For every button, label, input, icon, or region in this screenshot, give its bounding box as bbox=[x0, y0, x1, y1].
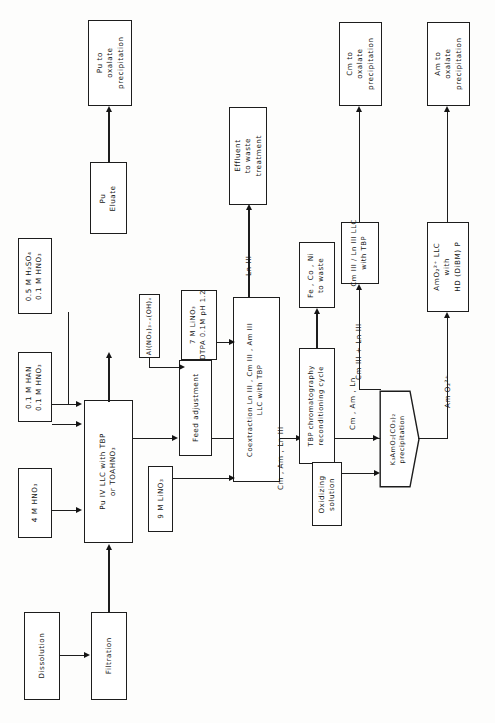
node-tbp-chromatography: TBP chromatography reconditioning cycle bbox=[299, 348, 335, 464]
arrowhead-pullc-feedadjust bbox=[172, 435, 178, 441]
node-coextraction: Coextraction Ln III , Cm III , Am III LL… bbox=[233, 297, 280, 482]
node-feed-adjustment-label: Feed adjustment bbox=[191, 374, 200, 443]
edge-oxidizing-k3amo2 bbox=[342, 473, 374, 474]
arrowhead-dissolution-filtration bbox=[84, 652, 90, 658]
node-fe-co-ni-waste-label: Fe , Co , Ni to waste bbox=[307, 252, 328, 297]
node-linO3-9m: 9 M LiNO₃ bbox=[148, 466, 173, 532]
node-dissolution: Dissolution bbox=[24, 612, 60, 700]
node-am-oxalate-label: Am to oxalate precipitation bbox=[433, 38, 464, 90]
arrowhead-ambranch-amo2llc bbox=[444, 312, 450, 318]
node-han-label: 0.1 M HAN 0.1 M HNO₃ bbox=[25, 363, 46, 410]
node-filtration-label: Filtration bbox=[104, 637, 113, 674]
node-linO3-9m-label: 9 M LiNO₃ bbox=[156, 479, 165, 519]
edge-coextraction-effluent bbox=[248, 210, 249, 298]
flowchart-canvas: Dissolution Filtration Pu IV LLC with TB… bbox=[0, 0, 495, 723]
node-fe-co-ni-waste: Fe , Co , Ni to waste bbox=[299, 242, 335, 308]
edge-amo2llc-amoxalate bbox=[447, 112, 448, 222]
node-linO3-7m-label: 7 M LiNO₃ DTPA 0.1M pH 1.2 bbox=[189, 290, 209, 360]
node-hno3-feed: 4 M HNO₃ bbox=[18, 468, 52, 538]
edge-linO3-9m-coextraction bbox=[173, 478, 229, 479]
edge-filtration-pullc bbox=[108, 550, 109, 612]
stream-label-cm-plus-ln: Cm III + Ln III bbox=[354, 323, 363, 380]
node-k3amo2-precipitation-label: K₃AmO₂(CO₃)₂ precipitation bbox=[388, 413, 407, 465]
arrowhead-cmlnllc-cmoxalate bbox=[356, 106, 362, 112]
stream-label-ln-iii: Ln III bbox=[244, 255, 253, 276]
node-al-nitrate: Al(NO₃)₃₋ₓ(OH)ₓ bbox=[139, 294, 160, 358]
arrowhead-han-pullc bbox=[76, 421, 82, 427]
node-tbp-chromatography-label: TBP chromatography reconditioning cycle bbox=[307, 365, 327, 446]
arrowhead-linO3-7m-coextraction bbox=[229, 339, 235, 345]
arrowhead-pullc-eluate bbox=[106, 352, 112, 358]
node-han: 0.1 M HAN 0.1 M HNO₃ bbox=[18, 352, 52, 422]
node-pu-oxalate-label: Pu to oxalate precipitation bbox=[94, 37, 125, 89]
edge-han-pullc bbox=[52, 424, 76, 425]
node-cm-ln-llc-label: Cm III / Ln III LLC with TBP bbox=[350, 219, 370, 286]
node-al-nitrate-label: Al(NO₃)₃₋ₓ(OH)ₓ bbox=[145, 297, 153, 355]
node-coextraction-label: Coextraction Ln III , Cm III , Am III LL… bbox=[247, 322, 267, 456]
arrowhead-filtration-pullc bbox=[106, 544, 112, 550]
node-pu-eluate-label: Pu Eluate bbox=[98, 185, 119, 211]
edge-eluate-puoxalate bbox=[108, 112, 109, 162]
arrowhead-amo2llc-amoxalate bbox=[444, 106, 450, 112]
node-feed-adjustment: Feed adjustment bbox=[179, 360, 212, 456]
node-effluent: Effluent to waste treatment bbox=[229, 107, 267, 205]
stream-label-cm-am-ln: Cm , Am , Ln bbox=[348, 377, 357, 430]
node-cm-ln-llc: Cm III / Ln III LLC with TBP bbox=[341, 222, 379, 284]
arrowhead-h2so4-pullc bbox=[76, 401, 82, 407]
node-amo2-llc: AmO₂²⁺ LLC with HD (DiBM) P bbox=[427, 222, 469, 312]
edge-k3amo2-cmbranch-h bbox=[359, 389, 381, 390]
node-k3amo2-precipitation: K₃AmO₂(CO₃)₂ precipitation bbox=[379, 390, 420, 488]
arrowhead-linO3-9m-coextraction bbox=[229, 475, 235, 481]
node-pu-llc: Pu IV LLC with TBP or TOAHNO₃ bbox=[84, 400, 133, 543]
node-amo2-llc-label: AmO₂²⁺ LLC with HD (DiBM) P bbox=[432, 242, 463, 292]
node-h2so4-label: 0.5 M H₂SO₄ 0.1 M HNO₃ bbox=[25, 251, 46, 301]
node-linO3-7m: 7 M LiNO₃ DTPA 0.1M pH 1.2 bbox=[181, 290, 217, 360]
node-cm-oxalate-label: Cm to oxalate precipitation bbox=[345, 38, 376, 90]
node-cm-oxalate: Cm to oxalate precipitation bbox=[339, 22, 382, 106]
edge-alnitrate-feedadjust bbox=[149, 367, 179, 368]
node-oxidizing-solution-label: Oxidizing solution bbox=[317, 475, 338, 513]
node-pu-llc-label: Pu IV LLC with TBP or TOAHNO₃ bbox=[98, 433, 119, 510]
node-am-oxalate: Am to oxalate precipitation bbox=[427, 22, 470, 106]
edge-pullc-feedadjust bbox=[133, 438, 172, 439]
edge-tbpchrom-fewaste bbox=[316, 314, 317, 348]
node-filtration: Filtration bbox=[91, 612, 127, 700]
node-pu-eluate: Pu Eluate bbox=[90, 162, 127, 234]
node-dissolution-label: Dissolution bbox=[37, 633, 46, 679]
stream-label-amo2: Am O₂²⁺ bbox=[443, 375, 452, 408]
node-hno3-feed-label: 4 M HNO₃ bbox=[30, 483, 39, 522]
arrowhead-hno3-pullc bbox=[76, 507, 82, 513]
edge-k3amo2-ambranch-h bbox=[418, 438, 448, 439]
node-oxidizing-solution: Oxidizing solution bbox=[312, 462, 342, 526]
edge-cmlnllc-cmoxalate bbox=[359, 112, 360, 222]
edge-pullc-eluate bbox=[108, 358, 109, 402]
stream-label-cm-am-lniii: Cm , Am , Ln III bbox=[276, 426, 285, 490]
edge-hno3-pullc bbox=[52, 510, 76, 511]
node-pu-oxalate: Pu to oxalate precipitation bbox=[88, 20, 132, 106]
node-effluent-label: Effluent to waste treatment bbox=[232, 135, 263, 176]
edge-h2so4-pullc-h bbox=[52, 404, 76, 405]
edge-h2so4-pullc-v bbox=[68, 312, 69, 405]
node-h2so4: 0.5 M H₂SO₄ 0.1 M HNO₃ bbox=[18, 238, 52, 314]
arrowhead-alnitrate-feedadjust bbox=[179, 364, 185, 370]
edge-dissolution-filtration bbox=[60, 655, 84, 656]
arrowhead-eluate-puoxalate bbox=[106, 106, 112, 112]
edge-linO3-7m-coextraction bbox=[217, 342, 229, 343]
arrowhead-tbpchrom-fewaste bbox=[314, 308, 320, 314]
